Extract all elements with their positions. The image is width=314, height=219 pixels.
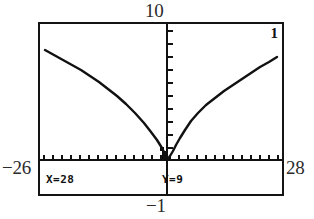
calculator-screen-frame: 1 X=28 Y=9	[38, 22, 284, 196]
calculator-graph-screenshot: 10 −1 −26 28	[0, 0, 314, 219]
graph-plot-area: 1 X=28 Y=9	[40, 24, 282, 194]
x-min-label: −26	[2, 158, 31, 177]
x-max-label: 28	[286, 158, 305, 177]
curve-right-branch	[167, 57, 277, 160]
y-min-label: −1	[146, 196, 166, 215]
function-number-badge: 1	[271, 26, 279, 41]
trace-x-readout: X=28	[46, 174, 75, 186]
curve-left-branch	[45, 50, 167, 160]
trace-y-readout: Y=9	[162, 174, 183, 186]
graph-canvas	[40, 24, 282, 194]
y-max-label: 10	[145, 1, 164, 20]
y-axis	[167, 24, 173, 194]
